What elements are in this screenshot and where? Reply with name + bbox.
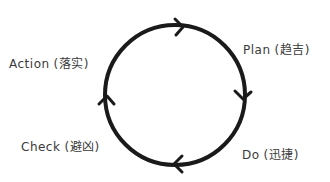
node-check-label: Check(避凶)	[21, 137, 100, 154]
node-do-note: (迅捷)	[264, 148, 299, 162]
node-check-title: Check	[21, 140, 60, 154]
node-plan-label: Plan(趋吉)	[243, 40, 310, 57]
node-check-note: (避凶)	[64, 140, 99, 154]
pdca-cycle-diagram: Action(落实) Plan(趋吉) Check(避凶) Do(迅捷)	[0, 0, 330, 182]
node-do-label: Do(迅捷)	[242, 145, 299, 162]
node-action-title: Action	[9, 57, 50, 71]
node-do-title: Do	[242, 148, 260, 162]
node-action-label: Action(落实)	[9, 54, 89, 71]
node-plan-note: (趋吉)	[275, 43, 310, 57]
node-action-note: (落实)	[54, 57, 89, 71]
node-plan-title: Plan	[243, 43, 271, 57]
